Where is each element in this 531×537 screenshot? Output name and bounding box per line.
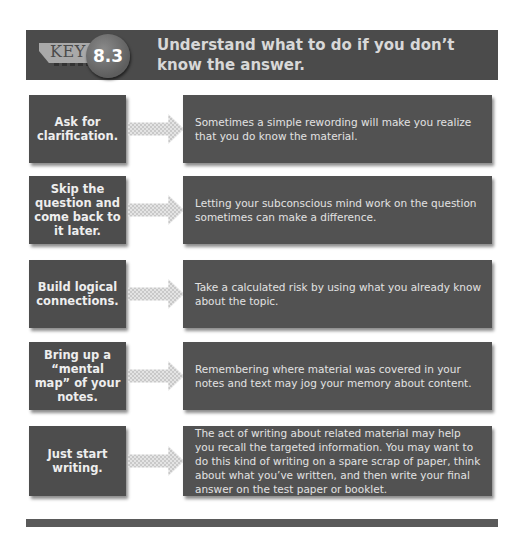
arrow-right-icon — [128, 195, 184, 225]
explanation-box: Take a calculated risk by using what you… — [183, 260, 492, 328]
strategy-row: Bring up a “mental map” of your notes. R… — [29, 342, 492, 412]
explanation-text: The act of writing about related materia… — [183, 426, 492, 496]
arrow-right-icon — [128, 114, 184, 144]
explanation-text: Sometimes a simple rewording will make y… — [183, 115, 492, 143]
key-header-bar: KEY 8.3 Understand what to do if you don… — [26, 30, 498, 80]
strategy-label: Just start writing. — [29, 447, 126, 475]
explanation-text: Letting your subconscious mind work on t… — [183, 196, 492, 224]
strategy-box: Build logical connections. — [29, 260, 126, 328]
explanation-box: Sometimes a simple rewording will make y… — [183, 95, 492, 163]
strategy-label: Skip the question and come back to it la… — [29, 182, 126, 238]
key-number: 8.3 — [93, 46, 123, 66]
strategy-row: Build logical connections. Take a calcul… — [29, 260, 492, 330]
arrow-right-icon — [128, 279, 184, 309]
key-title: Understand what to do if you don’t know … — [157, 35, 487, 75]
explanation-box: Letting your subconscious mind work on t… — [183, 176, 492, 244]
strategy-box: Bring up a “mental map” of your notes. — [29, 342, 126, 410]
strategy-row: Ask for clarification. Sometimes a simpl… — [29, 95, 492, 165]
strategy-box: Ask for clarification. — [29, 95, 126, 163]
key-number-badge: 8.3 — [86, 34, 130, 78]
strategy-row: Skip the question and come back to it la… — [29, 176, 492, 246]
strategy-row: Just start writing. The act of writing a… — [29, 426, 492, 498]
explanation-text: Take a calculated risk by using what you… — [183, 280, 492, 308]
arrow-right-icon — [128, 361, 184, 391]
strategy-label: Bring up a “mental map” of your notes. — [29, 348, 126, 404]
bottom-divider — [26, 519, 498, 527]
explanation-box: Remembering where material was covered i… — [183, 342, 492, 410]
explanation-text: Remembering where material was covered i… — [183, 362, 492, 390]
strategy-label: Ask for clarification. — [29, 115, 126, 143]
strategy-label: Build logical connections. — [29, 280, 126, 308]
key-label: KEY — [50, 42, 86, 61]
arrow-right-icon — [128, 446, 184, 476]
explanation-box: The act of writing about related materia… — [183, 426, 492, 496]
strategy-box: Skip the question and come back to it la… — [29, 176, 126, 244]
strategy-box: Just start writing. — [29, 426, 126, 496]
